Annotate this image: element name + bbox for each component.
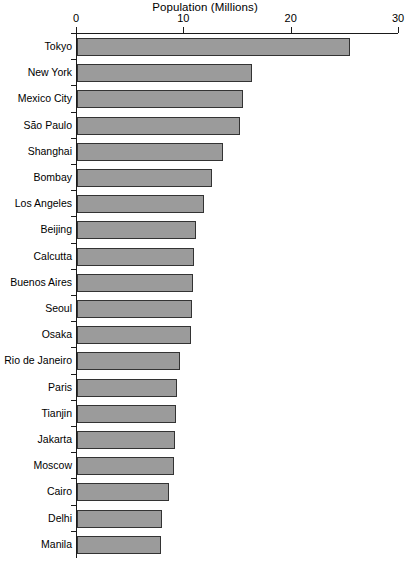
category-label: Los Angeles: [0, 197, 72, 209]
y-tick: [71, 164, 76, 165]
plot-area: 0102030 TokyoNew YorkMexico CitySão Paul…: [0, 0, 410, 570]
bar: [77, 483, 169, 501]
y-tick: [71, 243, 76, 244]
bar: [77, 274, 193, 292]
bar: [77, 64, 252, 82]
category-label: Jakarta: [0, 433, 72, 445]
x-tick-label-10: 10: [177, 12, 189, 24]
category-label: Tokyo: [0, 40, 72, 52]
bar: [77, 221, 196, 239]
y-tick: [71, 452, 76, 453]
category-label: Seoul: [0, 302, 72, 314]
y-tick: [71, 295, 76, 296]
bar: [77, 169, 212, 187]
category-label: Shanghai: [0, 145, 72, 157]
bar: [77, 352, 180, 370]
category-label: Osaka: [0, 328, 72, 340]
y-tick: [71, 400, 76, 401]
y-axis-line: [76, 33, 77, 558]
bar: [77, 90, 243, 108]
bar: [77, 379, 177, 397]
y-tick: [71, 531, 76, 532]
x-tick-label-20: 20: [285, 12, 297, 24]
y-tick: [71, 85, 76, 86]
category-label: Manila: [0, 538, 72, 550]
bar: [77, 117, 240, 135]
y-tick: [71, 59, 76, 60]
category-label: New York: [0, 66, 72, 78]
y-tick: [71, 190, 76, 191]
category-label: Tianjin: [0, 407, 72, 419]
x-tick-0: [76, 27, 77, 33]
y-tick: [71, 347, 76, 348]
x-tick-label-30: 30: [392, 12, 404, 24]
y-tick: [71, 216, 76, 217]
category-label: Bombay: [0, 171, 72, 183]
x-tick-30: [398, 27, 399, 33]
y-tick: [71, 374, 76, 375]
bar: [77, 143, 223, 161]
bar: [77, 457, 174, 475]
y-tick: [71, 138, 76, 139]
x-axis-line: [76, 33, 398, 34]
y-tick: [71, 426, 76, 427]
y-tick: [71, 478, 76, 479]
bar: [77, 536, 161, 554]
bar: [77, 431, 175, 449]
bar: [77, 248, 194, 266]
x-tick-label-0: 0: [73, 12, 79, 24]
x-tick-10: [183, 27, 184, 33]
category-label: Calcutta: [0, 250, 72, 262]
population-bar-chart: Population (Millions) 0102030 TokyoNew Y…: [0, 0, 410, 570]
category-label: Beijing: [0, 223, 72, 235]
bar: [77, 195, 204, 213]
category-label: Cairo: [0, 485, 72, 497]
y-tick: [71, 33, 76, 34]
y-tick: [71, 269, 76, 270]
bar: [77, 38, 350, 56]
bar: [77, 300, 192, 318]
category-label: Delhi: [0, 512, 72, 524]
category-label: Mexico City: [0, 92, 72, 104]
category-label: Rio de Janeiro: [0, 354, 72, 366]
category-label: Buenos Aires: [0, 276, 72, 288]
y-tick: [71, 321, 76, 322]
category-label: Paris: [0, 381, 72, 393]
bar: [77, 405, 176, 423]
bar: [77, 326, 191, 344]
y-tick: [71, 112, 76, 113]
bar: [77, 510, 162, 528]
category-label: Moscow: [0, 459, 72, 471]
y-tick: [71, 505, 76, 506]
x-tick-20: [291, 27, 292, 33]
category-label: São Paulo: [0, 119, 72, 131]
